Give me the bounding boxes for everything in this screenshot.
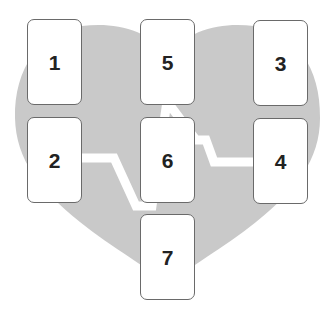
card-number-label: 5	[162, 52, 174, 73]
card-number-label: 3	[275, 53, 287, 74]
card-4[interactable]: 4	[253, 118, 308, 204]
card-6[interactable]: 6	[140, 117, 195, 203]
card-5[interactable]: 5	[140, 19, 195, 105]
card-number-label: 1	[49, 52, 61, 73]
card-7[interactable]: 7	[140, 214, 195, 300]
card-3[interactable]: 3	[253, 20, 308, 106]
card-number-label: 2	[49, 150, 61, 171]
card-number-label: 7	[162, 247, 174, 268]
card-spread-diagram: 1 5 3 2 6 4 7	[0, 0, 335, 319]
card-number-label: 6	[162, 150, 174, 171]
card-2[interactable]: 2	[27, 117, 82, 203]
card-1[interactable]: 1	[27, 19, 82, 105]
card-number-label: 4	[275, 151, 287, 172]
